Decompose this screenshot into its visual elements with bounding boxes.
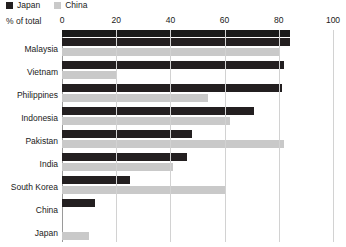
- x-axis-tick-label: 40: [166, 15, 175, 25]
- plot-area: [62, 30, 333, 242]
- square-swatch-icon: [54, 2, 61, 9]
- x-axis-tick-labels: 020406080100: [0, 15, 346, 27]
- gridline: [225, 30, 226, 242]
- bar-row: [62, 83, 333, 106]
- category-label: Philippines: [0, 83, 58, 106]
- bar-japan[interactable]: [62, 61, 284, 69]
- bar-japan[interactable]: [62, 176, 130, 184]
- category-label: Pakistan: [0, 129, 58, 152]
- gridline: [333, 30, 334, 242]
- gridline: [116, 30, 117, 242]
- bar-row: [62, 129, 333, 152]
- bar-china[interactable]: [62, 163, 173, 171]
- square-swatch-icon: [6, 2, 13, 9]
- bar-china[interactable]: [62, 71, 116, 79]
- gridline: [279, 30, 280, 242]
- category-label: South Korea: [0, 175, 58, 198]
- bar-row: [62, 60, 333, 83]
- legend-label-japan: Japan: [17, 1, 40, 10]
- category-labels: MalaysiaVietnamPhilippinesIndonesiaPakis…: [0, 37, 58, 244]
- x-axis-tick-label: 0: [60, 15, 65, 25]
- x-axis-tick-label: 60: [220, 15, 229, 25]
- bar-china[interactable]: [62, 232, 89, 240]
- bar-japan[interactable]: [62, 199, 95, 207]
- category-label: India: [0, 152, 58, 175]
- bar-row: [62, 221, 333, 244]
- category-label: Malaysia: [0, 37, 58, 60]
- bar-japan[interactable]: [62, 130, 192, 138]
- category-label: Indonesia: [0, 106, 58, 129]
- bar-china[interactable]: [62, 186, 225, 194]
- legend-item-japan: Japan: [6, 1, 40, 10]
- bar-chart: Japan China % of total 020406080100 Mala…: [0, 0, 346, 247]
- category-label: Japan: [0, 221, 58, 244]
- bar-row: [62, 198, 333, 221]
- bar-china[interactable]: [62, 94, 208, 102]
- category-label: China: [0, 198, 58, 221]
- bar-rows: [62, 37, 333, 244]
- category-label: Vietnam: [0, 60, 58, 83]
- legend-item-china: China: [54, 1, 87, 10]
- bar-row: [62, 37, 333, 60]
- x-axis-tick-label: 80: [274, 15, 283, 25]
- legend-label-china: China: [65, 1, 87, 10]
- chart-legend: Japan China: [6, 1, 87, 10]
- bar-japan[interactable]: [62, 38, 290, 46]
- bar-row: [62, 106, 333, 129]
- bar-china[interactable]: [62, 117, 230, 125]
- bar-row: [62, 152, 333, 175]
- bar-china[interactable]: [62, 140, 284, 148]
- bar-row: [62, 175, 333, 198]
- x-axis-baseline: [62, 30, 290, 37]
- x-axis-tick-label: 20: [111, 15, 120, 25]
- bar-japan[interactable]: [62, 84, 282, 92]
- x-axis-tick-label: 100: [326, 15, 340, 25]
- bar-japan[interactable]: [62, 153, 187, 161]
- gridline: [170, 30, 171, 242]
